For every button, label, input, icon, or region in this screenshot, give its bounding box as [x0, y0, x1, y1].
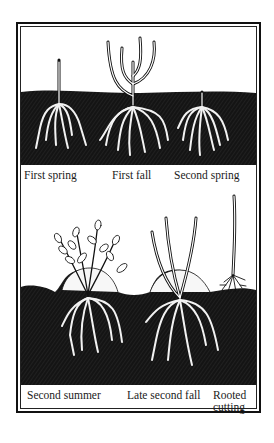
growth-stages-illustration: [0, 0, 274, 443]
label-second-spring: Second spring: [174, 169, 239, 181]
label-cutting: cutting: [213, 401, 245, 413]
label-late-second-fall: Late second fall: [127, 389, 200, 401]
label-first-spring: First spring: [24, 169, 77, 181]
label-second-summer: Second summer: [27, 389, 101, 401]
bottom-soil: [21, 268, 256, 385]
label-rooted: Rooted: [213, 389, 246, 401]
top-soil: [21, 91, 256, 165]
label-first-fall: First fall: [112, 169, 151, 181]
rooted-cutting: [220, 196, 246, 292]
